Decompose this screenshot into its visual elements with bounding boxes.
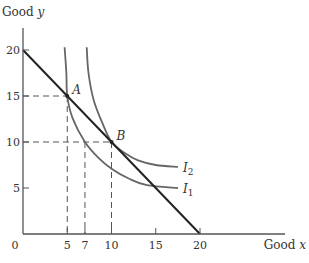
x-axis-variable: x [299,238,306,252]
x-axis-label: Good x [264,238,307,252]
x-tick-label: 10 [105,239,119,252]
indifference-curve-i2 [87,47,178,167]
indifference-curve-chart: 571015205101520 0Good yGood xABI1I2 [0,0,309,263]
point-b-marker [110,140,114,144]
x-tick-label: 5 [64,239,71,252]
y-tick-label: 20 [6,44,20,57]
indifference-curves [65,47,178,188]
axes [23,28,285,234]
y-axis-label: Good y [2,5,45,19]
point-a-label: A [71,83,81,97]
indifference-curve-i1 [65,47,178,188]
x-tick-label: 7 [81,239,88,252]
x-tick-label: 20 [193,239,207,252]
y-tick-label: 15 [6,90,20,103]
y-axis-variable: y [37,5,45,19]
curve-label-i1: I1 [182,182,193,198]
point-a-marker [65,94,69,98]
labels: 0Good yGood xABI1I2 [2,5,306,252]
curve-label-subscript: 1 [188,188,194,198]
origin-label: 0 [12,239,19,252]
dashed-guides [23,96,112,234]
curve-label-subscript: 2 [188,167,194,177]
ticks: 571015205101520 [6,44,207,252]
curve-label-i2: I2 [182,161,193,177]
y-tick-label: 5 [13,182,20,195]
x-tick-label: 15 [149,239,163,252]
y-tick-label: 10 [6,136,20,149]
point-b-label: B [116,129,126,143]
